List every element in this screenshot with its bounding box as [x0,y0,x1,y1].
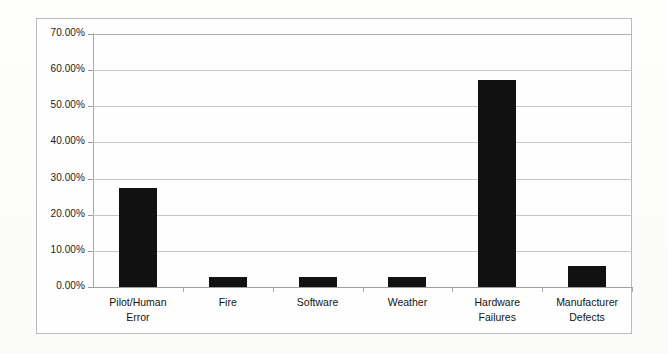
y-axis-tick-label: 20.00% [35,208,85,219]
x-axis-category-label: Hardware Failures [452,295,542,325]
bar [299,277,337,287]
gridline [93,215,632,216]
y-axis-tick [88,287,93,288]
x-axis-tick-group [93,287,632,293]
y-axis-tick [88,34,93,35]
gridline [93,106,632,107]
bar [209,277,247,287]
x-axis-category-label: Weather [363,295,453,310]
bar [388,277,426,287]
chart-screenshot: 0.00%10.00%20.00%30.00%40.00%50.00%60.00… [0,0,668,354]
x-axis-tick [363,287,364,292]
x-axis-category-label: Fire [183,295,273,310]
y-axis-tick [88,142,93,143]
x-axis-tick [632,287,633,292]
x-axis-tick [452,287,453,292]
y-axis-tick [88,179,93,180]
y-axis-tick [88,106,93,107]
x-axis-category-label: Software [273,295,363,310]
chart-frame: 0.00%10.00%20.00%30.00%40.00%50.00%60.00… [36,18,632,334]
gridline [93,251,632,252]
y-axis-tick-label: 70.00% [35,27,85,38]
gridline [93,142,632,143]
bar [568,266,606,287]
y-axis-label-group: 0.00%10.00%20.00%30.00%40.00%50.00%60.00… [37,19,85,333]
x-axis-label-group: Pilot/Human ErrorFireSoftwareWeatherHard… [93,295,632,335]
bar [119,188,157,287]
y-axis-tick-label: 10.00% [35,244,85,255]
y-axis-tick-label: 0.00% [35,280,85,291]
y-axis-tick-label: 50.00% [35,99,85,110]
y-axis-tick-label: 40.00% [35,135,85,146]
y-axis-tick [88,70,93,71]
y-axis-tick-label: 60.00% [35,63,85,74]
x-axis-tick [183,287,184,292]
gridline [93,34,632,35]
x-axis-tick [542,287,543,292]
bar [478,80,516,287]
y-axis-tick [88,251,93,252]
x-axis-category-label: Pilot/Human Error [93,295,183,325]
plot-area [93,34,632,287]
gridline [93,70,632,71]
x-axis-category-label: Manufacturer Defects [542,295,632,325]
y-axis-tick [88,215,93,216]
gridline [93,179,632,180]
y-axis-tick-label: 30.00% [35,172,85,183]
x-axis-tick [273,287,274,292]
